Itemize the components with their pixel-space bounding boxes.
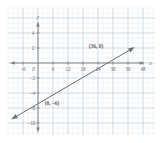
y-tick-label: –2 xyxy=(29,75,36,81)
screenshot-root: x y –6 0 6 12 18 24 30 36 48 4 2 –2 –4 –… xyxy=(0,0,163,143)
x-axis-letter: x xyxy=(148,60,152,66)
x-tick-label: 36 xyxy=(125,66,131,72)
x-tick-label: 30 xyxy=(110,66,116,72)
x-tick-label: 6 xyxy=(52,66,55,72)
y-tick-label: –10 xyxy=(27,120,36,126)
graph-svg: x y –6 0 6 12 18 24 30 36 48 4 2 –2 –4 –… xyxy=(0,0,163,143)
x-tick-label: 12 xyxy=(65,66,71,72)
x-tick-label: 18 xyxy=(80,66,86,72)
y-axis-letter: y xyxy=(36,14,40,20)
point-label-x-intercept: (36, 0) xyxy=(89,43,104,50)
point-label-y-intercept: (0, –6) xyxy=(45,100,60,107)
y-tick-label: –4 xyxy=(29,90,36,96)
x-tick-label: –6 xyxy=(19,66,26,72)
coordinate-graph-figure: x y –6 0 6 12 18 24 30 36 48 4 2 –2 –4 –… xyxy=(0,0,163,143)
x-tick-label: 48 xyxy=(140,66,146,72)
